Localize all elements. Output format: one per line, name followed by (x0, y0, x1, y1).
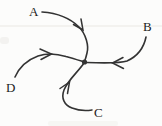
label-c: C (94, 105, 103, 120)
label-d: D (6, 80, 15, 95)
label-b: B (143, 19, 152, 34)
equilibrium-point-dot (82, 59, 87, 64)
label-a: A (29, 4, 39, 19)
phase-portrait-diagram: A B C D (0, 0, 162, 126)
diagram-canvas: A B C D (0, 0, 162, 126)
